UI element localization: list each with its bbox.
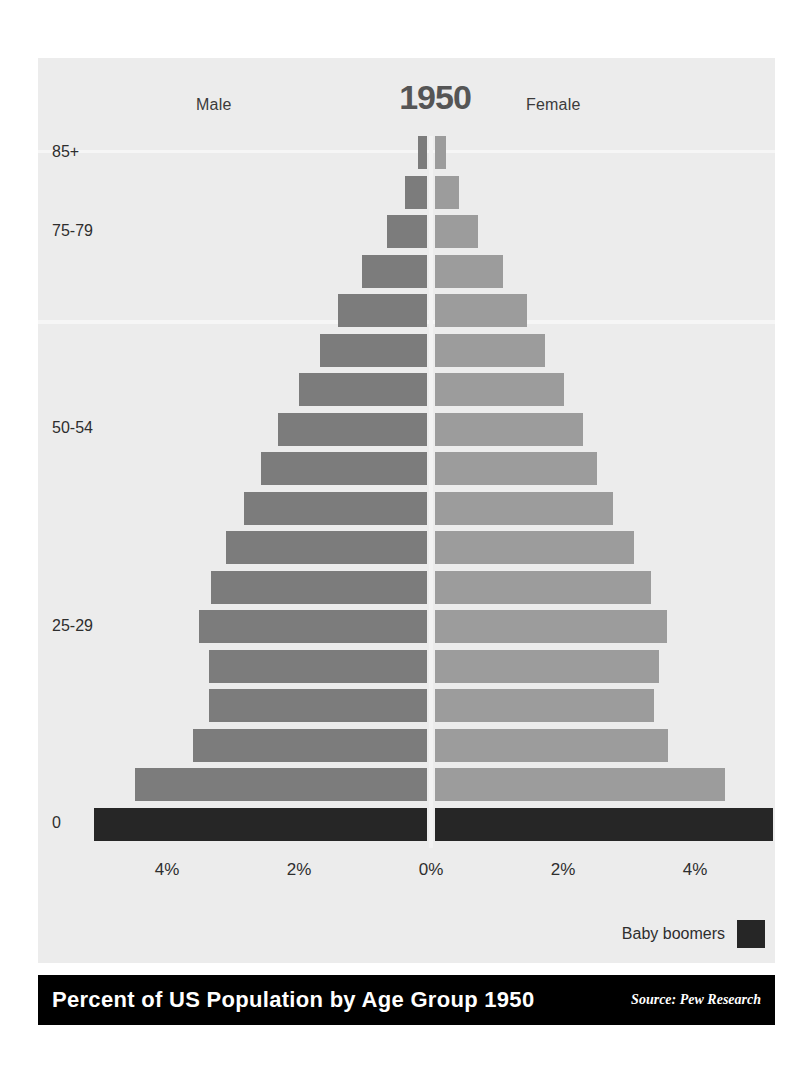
bar-male-5-9 xyxy=(135,768,427,801)
bar-male-40-44 xyxy=(244,492,427,525)
x-axis-tick-0: 4% xyxy=(137,860,197,880)
y-axis-label-25-29: 25-29 xyxy=(52,617,122,635)
bar-male-25-29 xyxy=(199,610,427,643)
bar-male-75-79 xyxy=(387,215,427,248)
y-axis-label-85+: 85+ xyxy=(52,143,122,161)
footer-title: Percent of US Population by Age Group 19… xyxy=(52,987,534,1013)
pyramid-row xyxy=(38,334,775,367)
bar-female-85+ xyxy=(435,136,446,169)
bar-female-20-24 xyxy=(435,650,659,683)
bar-male-10-14 xyxy=(193,729,427,762)
zero-axis-line xyxy=(429,136,433,848)
bar-female-80-84 xyxy=(435,176,459,209)
x-axis-tick-3: 2% xyxy=(533,860,593,880)
population-pyramid-figure: Male 1950 Female 85+75-7950-5425-290 4%2… xyxy=(0,0,811,1077)
footer-source: Source: Pew Research xyxy=(631,992,761,1008)
x-axis-tick-1: 2% xyxy=(269,860,329,880)
footer-bar: Percent of US Population by Age Group 19… xyxy=(38,975,775,1025)
female-column-label: Female xyxy=(526,96,581,114)
bar-female-25-29 xyxy=(435,610,667,643)
male-column-label: Male xyxy=(196,96,231,114)
y-axis-label-75-79: 75-79 xyxy=(52,222,122,240)
legend-label: Baby boomers xyxy=(622,925,725,943)
bar-female-5-9 xyxy=(435,768,725,801)
bar-female-0 xyxy=(435,808,773,841)
pyramid-row xyxy=(38,373,775,406)
bar-male-50-54 xyxy=(278,413,427,446)
pyramid-row xyxy=(38,136,775,169)
bar-female-45-49 xyxy=(435,452,597,485)
x-axis-tick-4: 4% xyxy=(665,860,725,880)
bar-female-15-19 xyxy=(435,689,654,722)
legend: Baby boomers xyxy=(622,920,765,948)
pyramid-row xyxy=(38,531,775,564)
bar-male-80-84 xyxy=(405,176,427,209)
pyramid-row xyxy=(38,650,775,683)
bar-male-0 xyxy=(94,808,427,841)
pyramid-row xyxy=(38,452,775,485)
bar-male-70-74 xyxy=(362,255,427,288)
pyramid-row xyxy=(38,215,775,248)
pyramid-row xyxy=(38,255,775,288)
pyramid-row xyxy=(38,571,775,604)
pyramid-row xyxy=(38,176,775,209)
bar-male-65-69 xyxy=(338,294,427,327)
pyramid-row xyxy=(38,808,775,841)
y-axis-label-50-54: 50-54 xyxy=(52,419,122,437)
bar-male-15-19 xyxy=(209,689,427,722)
year-title: 1950 xyxy=(370,78,500,117)
bar-male-30-34 xyxy=(211,571,427,604)
bar-female-70-74 xyxy=(435,255,503,288)
bar-male-55-59 xyxy=(299,373,427,406)
bar-female-35-39 xyxy=(435,531,634,564)
bar-female-30-34 xyxy=(435,571,651,604)
pyramid-row xyxy=(38,610,775,643)
pyramid-row xyxy=(38,689,775,722)
pyramid-row xyxy=(38,413,775,446)
bar-female-60-64 xyxy=(435,334,545,367)
y-axis-label-0: 0 xyxy=(52,814,122,832)
bar-female-50-54 xyxy=(435,413,583,446)
chart-panel: Male 1950 Female 85+75-7950-5425-290 4%2… xyxy=(38,58,775,963)
pyramid-row xyxy=(38,768,775,801)
pyramid-row xyxy=(38,492,775,525)
bar-female-40-44 xyxy=(435,492,613,525)
pyramid-row xyxy=(38,294,775,327)
plot-area xyxy=(38,136,775,848)
bar-female-75-79 xyxy=(435,215,478,248)
x-axis-tick-2: 0% xyxy=(401,860,461,880)
bar-male-45-49 xyxy=(261,452,427,485)
bar-male-35-39 xyxy=(226,531,427,564)
bar-female-10-14 xyxy=(435,729,668,762)
bar-male-20-24 xyxy=(209,650,427,683)
bar-female-65-69 xyxy=(435,294,527,327)
bar-male-60-64 xyxy=(320,334,427,367)
bar-female-55-59 xyxy=(435,373,564,406)
pyramid-row xyxy=(38,729,775,762)
legend-swatch-baby-boomers xyxy=(737,920,765,948)
bar-male-85+ xyxy=(418,136,427,169)
